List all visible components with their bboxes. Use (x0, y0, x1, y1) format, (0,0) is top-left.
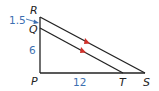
vertex-label-q: Q (29, 23, 38, 36)
measure-pt: 12 (73, 76, 86, 88)
parallel-mark-qt (80, 47, 86, 53)
vertex-label-p: P (31, 75, 38, 88)
segment-rs (40, 17, 145, 73)
vertex-label-s: S (143, 76, 150, 89)
measure-qp: 6 (29, 44, 36, 56)
parallel-mark-rs (84, 38, 90, 44)
triangle-diagram: R Q P T S 1.5 6 12 (0, 0, 159, 91)
measure-rq: 1.5 (9, 14, 26, 26)
vertex-label-r: R (30, 4, 38, 17)
vertex-label-t: T (119, 76, 127, 89)
